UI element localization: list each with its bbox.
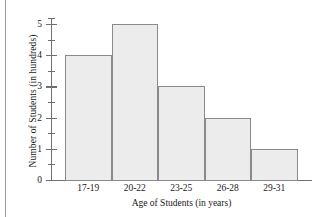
y-tick-major-1 <box>46 149 57 150</box>
histogram-chart: Number of Students (in hundreds) 0 1 2 3… <box>0 0 326 217</box>
y-tick-label-1: 1 <box>20 144 42 154</box>
y-axis-title: Number of Students (in hundreds) <box>28 21 38 181</box>
y-tick-major-2 <box>46 118 57 119</box>
y-tick-minor-0-5 <box>48 164 55 165</box>
x-axis-title: Age of Students (in years) <box>51 198 312 208</box>
y-tick-label-0: 0 <box>20 175 42 185</box>
y-tick-label-3: 3 <box>20 81 42 91</box>
y-tick-minor-2-5 <box>48 102 55 103</box>
bar-20-22 <box>112 24 159 181</box>
y-tick-major-3 <box>46 86 57 87</box>
bar-29-31 <box>251 149 298 181</box>
bar-17-19 <box>65 55 112 181</box>
x-tick-label-29-31: 29-31 <box>251 183 298 193</box>
bar-26-28 <box>205 118 252 181</box>
x-tick-label-23-25: 23-25 <box>158 183 205 193</box>
x-tick-label-26-28: 26-28 <box>205 183 252 193</box>
page-edge-line <box>5 0 6 217</box>
x-tick-label-20-22: 20-22 <box>112 183 159 193</box>
y-tick-minor-3-5 <box>48 71 55 72</box>
y-tick-label-2: 2 <box>20 113 42 123</box>
y-tick-minor-1-5 <box>48 133 55 134</box>
y-tick-major-5 <box>46 24 57 25</box>
y-tick-label-4: 4 <box>20 50 42 60</box>
y-tick-minor-4-5 <box>48 40 55 41</box>
y-axis-line <box>51 18 52 181</box>
y-tick-major-0 <box>46 180 57 181</box>
y-tick-minor-top <box>48 18 55 19</box>
x-tick-label-17-19: 17-19 <box>65 183 112 193</box>
y-tick-major-4 <box>46 55 57 56</box>
y-tick-label-5: 5 <box>20 19 42 29</box>
bar-23-25 <box>158 86 205 181</box>
